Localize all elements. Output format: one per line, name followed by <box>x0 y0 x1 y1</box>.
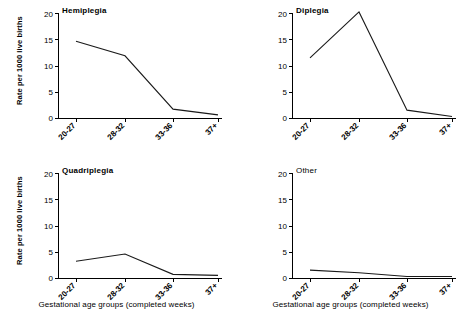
y-axis-group: 20 15 10 5 0 <box>278 10 292 124</box>
x-tick-33-36: 33-36 <box>388 121 409 142</box>
data-series-line <box>76 41 218 115</box>
x-tick-33-36: 33-36 <box>154 281 175 302</box>
chart-panel-hemiplegia: Rate per 1000 live births Hemiplegia 20 … <box>0 0 233 166</box>
y-tick-0: 0 <box>283 274 288 283</box>
data-series-line <box>310 12 452 117</box>
data-series-line <box>310 270 452 276</box>
x-tick-28-32: 28-32 <box>106 281 127 302</box>
y-tick-5: 5 <box>49 88 54 97</box>
y-tick-20: 20 <box>44 10 53 19</box>
y-tick-5: 5 <box>283 248 288 257</box>
x-tick-28-32: 28-32 <box>340 281 361 302</box>
x-axis-group: 20-27 28-32 33-36 37+ <box>57 279 222 302</box>
plot-area-diplegia: 20 15 10 5 0 20-27 28-32 33-36 37+ <box>234 0 467 166</box>
y-tick-15: 15 <box>44 36 53 45</box>
y-tick-5: 5 <box>49 248 54 257</box>
x-tick-20-27: 20-27 <box>57 281 78 302</box>
x-tick-33-36: 33-36 <box>388 281 409 302</box>
x-axis-group: 20-27 28-32 33-36 37+ <box>291 119 456 142</box>
x-tick-33-36: 33-36 <box>154 121 175 142</box>
y-tick-5: 5 <box>283 88 288 97</box>
x-tick-37-plus: 37+ <box>203 281 219 297</box>
x-tick-37-plus: 37+ <box>437 121 453 137</box>
x-tick-28-32: 28-32 <box>106 121 127 142</box>
y-tick-20: 20 <box>44 170 53 179</box>
x-tick-20-27: 20-27 <box>57 121 78 142</box>
y-tick-0: 0 <box>283 114 288 123</box>
y-tick-10: 10 <box>278 222 287 231</box>
x-axis-label: Gestational age groups (completed weeks) <box>0 300 233 309</box>
chart-panel-other: Other 20 15 10 5 0 20-27 <box>234 160 467 326</box>
y-tick-15: 15 <box>278 36 287 45</box>
x-tick-20-27: 20-27 <box>291 281 312 302</box>
x-tick-28-32: 28-32 <box>340 121 361 142</box>
y-tick-10: 10 <box>278 62 287 71</box>
plot-area-hemiplegia: 20 15 10 5 0 20-27 28-32 33-36 37+ <box>0 0 233 166</box>
data-series-line <box>76 254 218 275</box>
x-axis-label: Gestational age groups (completed weeks) <box>234 300 467 309</box>
chart-panel-diplegia: Diplegia 20 15 10 5 0 20-27 <box>234 0 467 166</box>
y-tick-15: 15 <box>44 196 53 205</box>
y-tick-15: 15 <box>278 196 287 205</box>
y-axis-group: 20 15 10 5 0 <box>278 170 292 284</box>
multi-panel-line-chart-figure: Rate per 1000 live births Hemiplegia 20 … <box>0 0 467 333</box>
y-axis-group: 20 15 10 5 0 <box>44 10 58 124</box>
x-tick-37-plus: 37+ <box>437 281 453 297</box>
x-tick-37-plus: 37+ <box>203 121 219 137</box>
chart-panel-quadriplegia: Rate per 1000 live births Quadriplegia 2… <box>0 160 233 326</box>
y-tick-0: 0 <box>49 114 54 123</box>
y-tick-20: 20 <box>278 170 287 179</box>
x-tick-20-27: 20-27 <box>291 121 312 142</box>
x-axis-group: 20-27 28-32 33-36 37+ <box>291 279 456 302</box>
y-tick-10: 10 <box>44 62 53 71</box>
y-tick-0: 0 <box>49 274 54 283</box>
y-tick-10: 10 <box>44 222 53 231</box>
y-tick-20: 20 <box>278 10 287 19</box>
x-axis-group: 20-27 28-32 33-36 37+ <box>57 119 222 142</box>
y-axis-group: 20 15 10 5 0 <box>44 170 58 284</box>
